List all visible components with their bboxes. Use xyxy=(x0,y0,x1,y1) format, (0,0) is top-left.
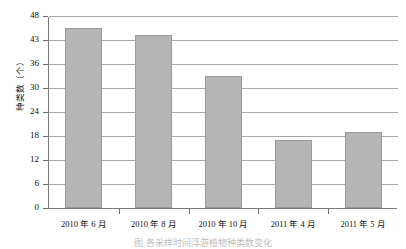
bar xyxy=(275,140,312,208)
y-axis-tick xyxy=(43,160,48,161)
bar xyxy=(205,76,242,208)
bar xyxy=(135,35,172,208)
y-axis-label: 24 xyxy=(13,107,39,116)
y-axis-label: 48 xyxy=(13,11,39,20)
y-axis-label: 36 xyxy=(13,59,39,68)
y-axis-tick xyxy=(43,184,48,185)
y-axis-tick xyxy=(43,136,48,137)
x-axis-label: 2011 年 5 月 xyxy=(318,217,406,229)
y-axis-label: 30 xyxy=(13,83,39,92)
x-axis-tick xyxy=(189,209,190,214)
x-axis-tick xyxy=(258,209,259,214)
y-axis-label: 12 xyxy=(13,155,39,164)
bar xyxy=(65,28,102,208)
plot-area: 06121824303643482010 年 6 月2010 年 8 月2010… xyxy=(48,17,397,209)
figure-caption: 图 各采样时间浮游植物种类数变化 xyxy=(0,236,406,249)
gridline xyxy=(49,16,398,17)
y-axis-label: 18 xyxy=(13,131,39,140)
y-axis-label: 0 xyxy=(13,203,39,212)
y-axis-tick xyxy=(43,40,48,41)
y-axis-tick xyxy=(43,208,48,209)
y-axis-label: 6 xyxy=(13,179,39,188)
y-axis-tick xyxy=(43,64,48,65)
x-axis-tick xyxy=(328,209,329,214)
x-axis-tick xyxy=(119,209,120,214)
bar xyxy=(345,132,382,208)
y-axis-tick xyxy=(43,88,48,89)
y-axis-label: 43 xyxy=(13,35,39,44)
y-axis-tick xyxy=(43,112,48,113)
y-axis-tick xyxy=(43,16,48,17)
